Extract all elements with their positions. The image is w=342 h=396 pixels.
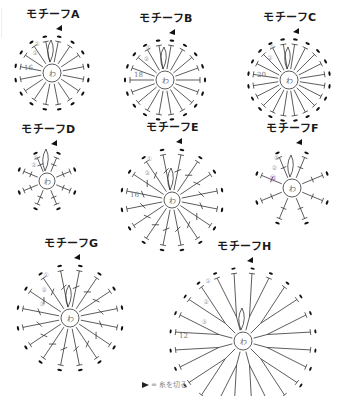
cut-yarn-arrow-icon [142,382,149,388]
round-label: ③ [202,318,207,325]
legend-text: = 糸を切る [151,381,187,389]
center-ring-label: わ [240,338,247,346]
round-label: ② [204,298,209,305]
stitch-count-label: 12 [179,332,188,340]
legend: = 糸を切る [142,379,187,389]
motif-chart: ①②③わ12 [0,0,342,396]
round-label: ① [206,277,211,284]
cut-yarn-arrow-icon [247,257,253,263]
